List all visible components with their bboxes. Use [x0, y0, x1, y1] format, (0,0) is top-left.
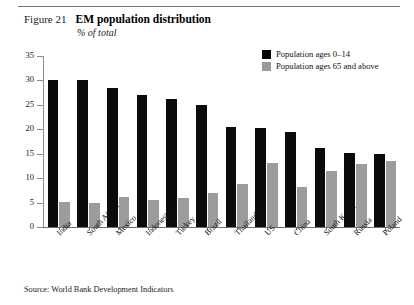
- bar-young: [77, 80, 88, 227]
- bar-group: [137, 56, 159, 227]
- bar-group: [344, 56, 366, 227]
- bar-young: [166, 99, 177, 227]
- y-axis-tick-label: 5: [14, 197, 34, 207]
- bar-young: [196, 105, 207, 227]
- bar-group: [285, 56, 307, 227]
- y-axis-tick: [37, 227, 43, 228]
- bar-group: [196, 56, 218, 227]
- bar-group: [77, 56, 99, 227]
- bar-group: [374, 56, 396, 227]
- bar-young: [226, 127, 237, 227]
- y-axis-tick: [37, 80, 43, 81]
- y-axis-tick-label: 10: [14, 172, 34, 182]
- y-axis-tick-label: 15: [14, 148, 34, 158]
- bar-group: [48, 56, 70, 227]
- bar-old: [267, 163, 278, 227]
- bar-young: [255, 128, 266, 227]
- bar-group: [226, 56, 248, 227]
- bar-group: [166, 56, 188, 227]
- y-axis-tick-label: 0: [14, 221, 34, 231]
- y-axis-tick: [37, 203, 43, 204]
- bar-group: [107, 56, 129, 227]
- y-axis-tick: [37, 56, 43, 57]
- y-axis-tick-label: 35: [14, 50, 34, 60]
- chart-plot-area: 05101520253035 IndiaSouth AfricaMexicoIn…: [0, 0, 414, 305]
- y-axis-tick-label: 25: [14, 99, 34, 109]
- bar-young: [137, 95, 148, 227]
- source-note: Source: World Bank Development Indicator…: [24, 285, 173, 294]
- bar-young: [285, 132, 296, 227]
- y-axis-tick-label: 30: [14, 74, 34, 84]
- bar-series-container: [44, 56, 400, 227]
- y-axis-tick: [37, 178, 43, 179]
- bar-young: [48, 80, 59, 227]
- y-axis-tick: [37, 129, 43, 130]
- bar-young: [315, 148, 326, 227]
- y-axis-tick-label: 20: [14, 123, 34, 133]
- bar-group: [255, 56, 277, 227]
- y-axis-tick: [37, 154, 43, 155]
- bar-young: [374, 154, 385, 227]
- y-axis-tick: [37, 105, 43, 106]
- bar-group: [315, 56, 337, 227]
